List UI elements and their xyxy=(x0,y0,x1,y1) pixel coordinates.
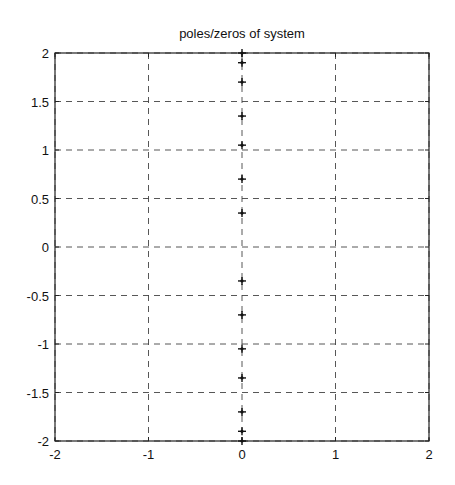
plus-marker xyxy=(238,59,246,67)
plus-marker xyxy=(238,408,246,416)
plus-marker xyxy=(238,141,246,149)
x-tick-label: -2 xyxy=(49,447,61,462)
plus-marker xyxy=(238,311,246,319)
plus-marker xyxy=(238,78,246,86)
x-tick-label: 0 xyxy=(238,447,245,462)
y-tick-label: -1 xyxy=(37,337,49,352)
y-tick-label: 1.5 xyxy=(31,95,49,110)
y-tick-label: 2 xyxy=(42,46,49,61)
x-tick-label: 2 xyxy=(425,447,432,462)
x-tick-label: 1 xyxy=(332,447,339,462)
plus-marker xyxy=(238,49,246,57)
y-tick-label: -1.5 xyxy=(27,386,49,401)
plus-marker xyxy=(238,427,246,435)
plus-marker xyxy=(238,209,246,217)
plus-marker xyxy=(238,277,246,285)
plus-marker xyxy=(238,437,246,445)
y-tick-label: 0.5 xyxy=(31,192,49,207)
y-axis-ticks: -2-1.5-1-0.500.511.52 xyxy=(27,46,429,449)
pole-zero-plot: poles/zeros of system -2-1.5-1-0.500.511… xyxy=(0,0,455,485)
y-tick-label: 0 xyxy=(42,240,49,255)
chart-title: poles/zeros of system xyxy=(179,26,305,41)
plus-marker xyxy=(238,175,246,183)
x-axis-ticks: -2-1012 xyxy=(49,53,432,462)
y-tick-label: 1 xyxy=(42,143,49,158)
plus-marker xyxy=(238,345,246,353)
grid-lines xyxy=(55,53,429,441)
y-tick-label: -2 xyxy=(37,434,49,449)
y-tick-label: -0.5 xyxy=(27,289,49,304)
plus-marker xyxy=(238,374,246,382)
plus-marker xyxy=(238,112,246,120)
x-tick-label: -1 xyxy=(143,447,155,462)
